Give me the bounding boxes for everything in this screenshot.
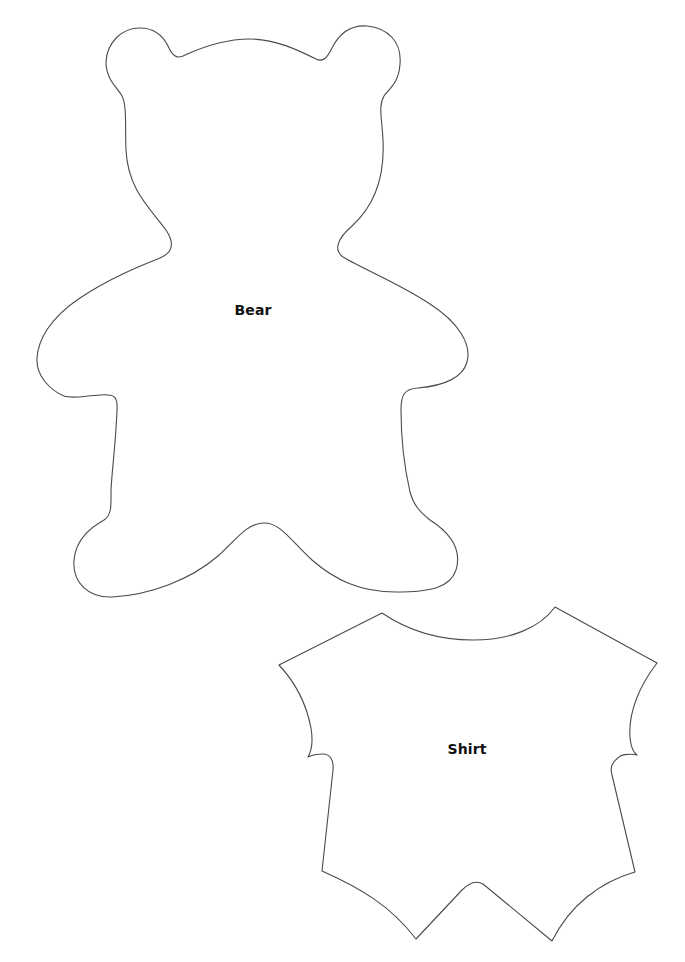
shirt-label: Shirt <box>448 741 487 757</box>
shirt-outline <box>279 607 657 941</box>
bear-label: Bear <box>235 302 272 318</box>
pattern-canvas <box>0 0 685 962</box>
